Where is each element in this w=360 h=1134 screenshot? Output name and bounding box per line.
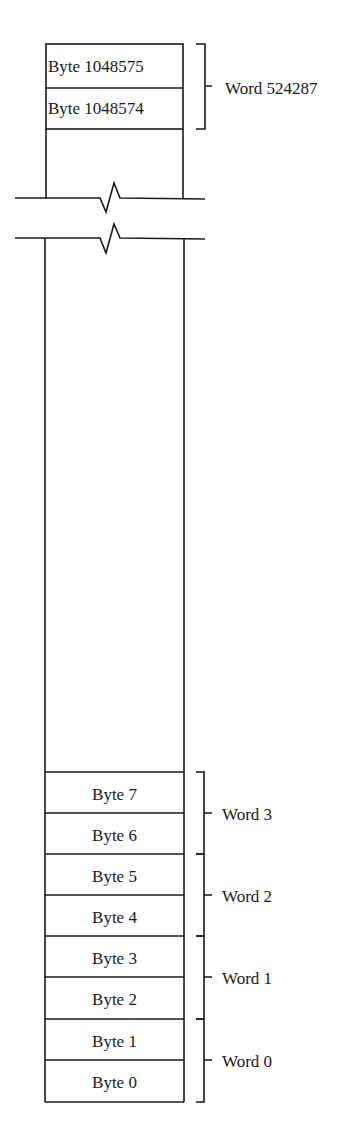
word-label: Word 524287 — [225, 80, 318, 97]
word-label: Word 3 — [222, 806, 272, 823]
word-label: Word 2 — [222, 888, 272, 905]
byte-label: Byte 2 — [46, 991, 183, 1008]
word-label: Word 0 — [222, 1053, 272, 1070]
byte-label: Byte 7 — [46, 786, 183, 803]
byte-label: Byte 1048575 — [46, 58, 183, 75]
break-line-top — [15, 183, 205, 212]
brace-word-3 — [196, 772, 212, 854]
byte-label: Byte 6 — [46, 827, 183, 844]
byte-label: Byte 1048574 — [46, 100, 183, 117]
break-line-bottom — [15, 224, 205, 253]
brace-word-0 — [196, 1019, 212, 1102]
brace-word-2 — [196, 854, 212, 936]
byte-label: Byte 5 — [46, 868, 183, 885]
byte-label: Byte 4 — [46, 909, 183, 926]
byte-label: Byte 3 — [46, 950, 183, 967]
byte-label: Byte 0 — [46, 1074, 183, 1091]
brace-word-524287 — [196, 44, 212, 129]
byte-label: Byte 1 — [46, 1033, 183, 1050]
word-label: Word 1 — [222, 970, 272, 987]
brace-word-1 — [196, 936, 212, 1019]
